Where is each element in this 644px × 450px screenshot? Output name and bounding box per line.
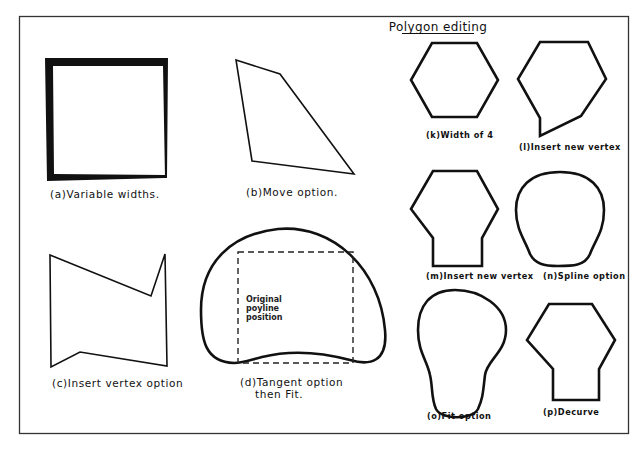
hexagon-new-vertex-shape xyxy=(518,42,606,136)
spline-curve-shape xyxy=(516,172,604,266)
figure-a-label: (a)Variable widths. xyxy=(50,188,160,200)
figure-m-insert-new-vertex: (m)Insert new vertex xyxy=(411,171,534,281)
figure-c-insert-vertex: (c)Insert vertex option xyxy=(50,254,183,389)
decurved-polygon-shape xyxy=(527,304,615,400)
variable-width-square-shape xyxy=(45,58,168,181)
wide-hexagon-shape xyxy=(411,43,498,117)
figure-n-label: (n)Spline option xyxy=(543,271,626,281)
fitted-curve-shape xyxy=(201,229,385,363)
polygon-editing-diagram: Polygon editing (a)Variable widths. (b)M… xyxy=(0,0,644,450)
figure-a-variable-widths: (a)Variable widths. xyxy=(45,58,168,200)
figure-b-move-option: (b)Move option. xyxy=(236,60,354,198)
figure-l-insert-new-vertex: (l)Insert new vertex xyxy=(518,42,621,152)
figure-k-width-of-4: (k)Width of 4 xyxy=(411,43,498,140)
annotation-line-3: position xyxy=(246,313,283,322)
annotation-line-1: Original xyxy=(246,295,282,304)
diagram-frame xyxy=(20,17,629,434)
figure-m-label: (m)Insert new vertex xyxy=(426,271,534,281)
figure-d-label-line-2: then Fit. xyxy=(255,388,303,400)
fit-curve-shape xyxy=(418,290,506,417)
figure-n-spline-option: (n)Spline option xyxy=(516,172,626,281)
figure-o-fit-option: (o)Fit option xyxy=(418,290,506,421)
diagram-title: Polygon editing xyxy=(389,20,488,34)
figure-o-label: (o)Fit option xyxy=(427,411,491,421)
figure-p-label: (p)Decurve xyxy=(543,407,599,417)
figure-c-label: (c)Insert vertex option xyxy=(52,377,183,389)
annotation-line-2: poyline xyxy=(246,304,280,313)
hexagon-extended-shape xyxy=(411,171,498,266)
figure-l-label: (l)Insert new vertex xyxy=(519,142,621,152)
figure-d-label-line-1: (d)Tangent option xyxy=(240,376,343,388)
inserted-vertex-shape xyxy=(50,254,167,367)
figure-k-label: (k)Width of 4 xyxy=(426,130,493,140)
figure-d-tangent-fit: Original poyline position (d)Tangent opt… xyxy=(201,229,385,400)
figure-p-decurve: (p)Decurve xyxy=(527,304,615,417)
moved-vertex-shape xyxy=(236,60,354,174)
figure-b-label: (b)Move option. xyxy=(246,186,338,198)
